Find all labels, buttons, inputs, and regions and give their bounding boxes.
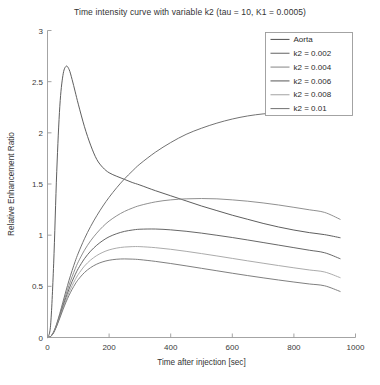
legend-label-1: k2 = 0.002	[294, 49, 332, 58]
y-tick-label: 2.5	[32, 78, 44, 87]
x-tick-label: 0	[45, 343, 50, 352]
x-tick-label: 800	[287, 343, 301, 352]
y-tick-label: 1	[39, 231, 44, 240]
y-tick-label: 3	[39, 27, 44, 36]
plot-area: 00.511.522.53 02004006008001000 Time aft…	[0, 0, 380, 385]
legend-label-0: Aorta	[294, 35, 314, 44]
y-axis-ticks: 00.511.522.53	[32, 27, 52, 343]
legend-label-3: k2 = 0.006	[294, 77, 332, 86]
legend-label-4: k2 = 0.008	[294, 90, 332, 99]
x-tick-label: 600	[226, 343, 240, 352]
series-line-3	[48, 229, 341, 338]
legend-label-5: k2 = 0.01	[294, 104, 328, 113]
x-axis-ticks: 02004006008001000	[45, 334, 365, 352]
chart-figure: Time intensity curve with variable k2 (t…	[0, 0, 380, 385]
x-tick-label: 1000	[347, 343, 365, 352]
y-tick-label: 1.5	[32, 180, 44, 189]
x-axis-label: Time after injection [sec]	[157, 358, 245, 367]
x-tick-label: 400	[164, 343, 178, 352]
x-tick-label: 200	[102, 343, 116, 352]
legend-box	[266, 33, 353, 116]
series-line-5	[48, 259, 341, 338]
series-line-1	[48, 111, 341, 338]
y-tick-label: 2	[39, 129, 44, 138]
legend-label-2: k2 = 0.004	[294, 63, 332, 72]
series-line-4	[48, 247, 341, 338]
y-axis-label: Relative Enhancement Ratio	[7, 132, 16, 236]
y-tick-label: 0.5	[32, 282, 44, 291]
chart-legend: Aortak2 = 0.002k2 = 0.004k2 = 0.006k2 = …	[266, 33, 353, 116]
y-tick-label: 0	[39, 334, 44, 343]
